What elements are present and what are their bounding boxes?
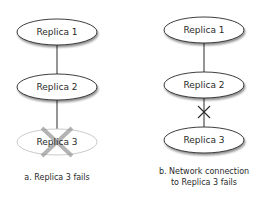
node-a-replica-2: Replica 2 [17,74,97,100]
node-label: Replica 2 [183,80,224,90]
node-label: Replica 1 [183,25,224,35]
diagram-a: Replica 1 Replica 2 Replica 3 [17,19,97,156]
node-a-replica-3-failed: Replica 3 [17,128,97,156]
node-a-replica-1: Replica 1 [17,19,97,45]
node-label: Replica 3 [183,135,224,145]
node-label: Replica 2 [36,82,77,92]
caption-b: b. Network connection to Replica 3 fails [147,166,261,188]
caption-b-line-2: to Replica 3 fails [147,177,261,188]
node-label: Replica 1 [36,27,77,37]
caption-a-text: a. Replica 3 fails [0,172,114,183]
node-label: Replica 3 [36,137,77,147]
diagram-b: Replica 1 Replica 2 Replica 3 [164,17,244,153]
node-b-replica-1: Replica 1 [164,17,244,43]
caption-a: a. Replica 3 fails [0,172,114,183]
caption-b-line-1: b. Network connection [147,166,261,177]
node-b-replica-3: Replica 3 [164,127,244,153]
node-b-replica-2: Replica 2 [164,72,244,98]
